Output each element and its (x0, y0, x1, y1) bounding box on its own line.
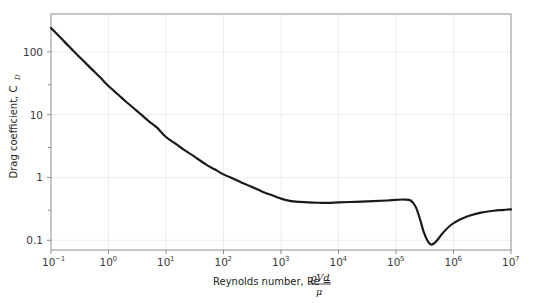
chart-figure: 10−1100101102103104105106107 1001010.1 R… (0, 0, 538, 303)
x-tick-label-mantissa: 10 (100, 256, 113, 268)
x-axis-title-denominator: μ (316, 286, 322, 297)
x-tick-label-exponent: 5 (400, 255, 404, 263)
x-tick-label-exponent: 1 (170, 255, 174, 263)
x-tick-label-exponent: 4 (343, 255, 348, 263)
drag-coefficient-chart: 10−1100101102103104105106107 1001010.1 R… (0, 0, 538, 303)
x-tick-label-mantissa: 10 (157, 256, 170, 268)
x-tick-label-mantissa: 10 (387, 256, 400, 268)
x-tick-label-exponent: 7 (515, 255, 519, 263)
y-tick-label: 0.1 (26, 234, 43, 246)
x-tick-label-exponent: 2 (228, 255, 232, 263)
x-tick-label-mantissa: 10 (272, 256, 285, 268)
y-tick-label: 10 (30, 109, 43, 121)
x-tick-label-exponent: 6 (458, 255, 463, 263)
y-tick-label: 100 (23, 46, 43, 58)
x-tick-label-mantissa: 10 (502, 256, 515, 268)
x-tick-label-mantissa: 10 (215, 256, 228, 268)
y-axis-title-subscript: D (14, 74, 22, 81)
x-tick-label-exponent: 0 (113, 255, 117, 263)
x-tick-label-mantissa: 10 (445, 256, 458, 268)
x-tick-label-mantissa: 10 (330, 256, 343, 268)
x-tick-label-exponent: 3 (285, 255, 289, 263)
y-axis-title-text: Drag coefficient, C (8, 86, 19, 179)
x-axis-title-numerator: ρVd (310, 272, 330, 283)
x-tick-label-mantissa: 10 (42, 256, 55, 268)
y-tick-label: 1 (36, 171, 43, 183)
x-tick-label-exponent: −1 (55, 255, 65, 263)
